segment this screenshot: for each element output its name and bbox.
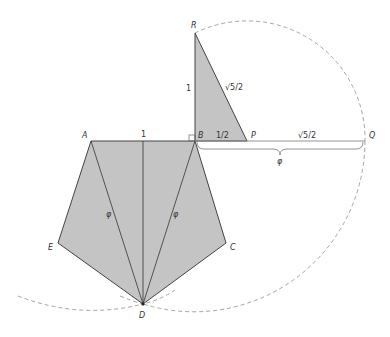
label-B: B	[198, 131, 204, 140]
measure-BQ: φ	[277, 157, 283, 166]
measure-BR: 1	[186, 84, 191, 93]
right-angle-marker	[189, 135, 195, 141]
label-C: C	[230, 243, 236, 252]
measure-BD: φ	[173, 210, 179, 219]
measure-AB: 1	[141, 130, 146, 139]
label-Q: Q	[369, 131, 375, 140]
point-D	[141, 302, 144, 305]
pentagon	[58, 141, 226, 304]
measure-AD: φ	[106, 210, 112, 219]
measure-RP: √5/2	[225, 83, 243, 92]
label-P: P	[251, 131, 256, 140]
measure-BP: 1/2	[216, 131, 229, 140]
label-R: R	[191, 21, 197, 30]
label-D: D	[139, 311, 145, 320]
label-E: E	[48, 243, 54, 252]
measure-PQ: √5/2	[298, 131, 316, 140]
label-A: A	[81, 131, 87, 140]
brace-phi	[197, 142, 363, 155]
diagram-canvas: A B C D E R P Q 1 1 √5/2 1/2 √5/2 φ φ φ	[0, 0, 390, 337]
arc-left-to-D	[18, 296, 143, 310]
